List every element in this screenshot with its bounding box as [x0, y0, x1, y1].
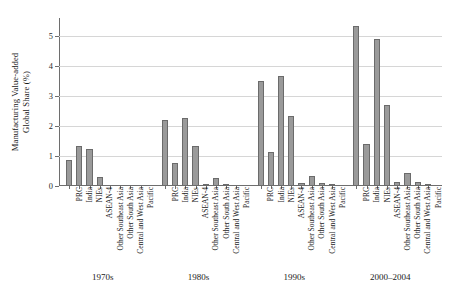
x-axis-category-label: PRC [72, 187, 81, 201]
bar [76, 146, 82, 187]
x-axis-category-label: Other Southeast Asia [400, 187, 409, 250]
x-axis-category-label: Central and West Asia [325, 187, 334, 254]
bar [86, 149, 92, 187]
x-axis-category-label: PRC [263, 187, 272, 201]
x-axis-category-label: ASEAN-4 [390, 187, 399, 218]
y-tick-mark [55, 36, 59, 37]
y-axis-title-line1: Manufacturing Value-added [10, 53, 20, 152]
bar [309, 176, 315, 187]
gridline [59, 66, 442, 67]
y-tick-label: 2 [49, 122, 53, 131]
bar [97, 177, 103, 186]
y-tick-mark [55, 96, 59, 97]
x-axis-category-label: Pacific [335, 187, 344, 208]
x-axis-category-label: NIEs [188, 187, 197, 202]
x-axis-category-label: Other Southeast Asia [208, 187, 217, 250]
x-axis-category-label: NIEs [380, 187, 389, 202]
x-axis-category-label: Other Southeast Asia [304, 187, 313, 250]
y-tick-mark [55, 156, 59, 157]
x-axis-category-label: Central and West Asia [133, 187, 142, 254]
x-axis-category-label: PRC [359, 187, 368, 201]
x-axis-category-label: ASEAN-4 [294, 187, 303, 218]
x-axis-category-label: India [82, 187, 91, 202]
y-tick-label: 1 [49, 152, 53, 161]
bar [384, 105, 390, 186]
x-axis-category-label: Pacific [239, 187, 248, 208]
x-axis-group-label: 1990s [284, 272, 306, 282]
x-axis-category-label: India [369, 187, 378, 202]
x-axis-category-label: Central and West Asia [229, 187, 238, 254]
figure-canvas: ﾠ Manufacturing Value-added Global Share… [0, 0, 450, 307]
x-axis-group-label: 1970s [92, 272, 114, 282]
x-axis-category-label: ASEAN-4 [198, 187, 207, 218]
bar [268, 152, 274, 186]
y-tick-label: 0 [49, 182, 53, 191]
bar [172, 163, 178, 186]
bar [353, 26, 359, 187]
gridline [59, 36, 442, 37]
bar [363, 144, 369, 186]
y-tick-label: 3 [49, 92, 53, 101]
x-axis-category-labels: PRCIndiaNIEsASEAN-4Other Southeast AsiaO… [59, 187, 442, 262]
y-tick-label: 4 [49, 62, 53, 71]
bar [192, 146, 198, 186]
bar [213, 178, 219, 186]
bar [374, 39, 380, 186]
bar [278, 76, 284, 186]
gridline [59, 96, 442, 97]
scan-top-artifact: ﾠ [0, 0, 450, 7]
x-axis-group-labels: 1970s1980s1990s2000–2004 [59, 272, 442, 288]
x-axis-category-label: Other South Asia [123, 187, 132, 239]
x-axis-category-label: Pacific [143, 187, 152, 208]
x-axis-category-label: Other Southeast Asia [113, 187, 122, 250]
bar [404, 173, 410, 187]
x-axis-category-label: Other South Asia [410, 187, 419, 239]
x-axis-category-label: India [178, 187, 187, 202]
x-axis-category-label: Central and West Asia [420, 187, 429, 254]
y-tick-mark [55, 66, 59, 67]
y-axis-title-line2: Global Share (%) [21, 53, 32, 152]
bar [162, 120, 168, 186]
x-axis-category-label: India [274, 187, 283, 202]
x-axis-group-label: 1980s [188, 272, 210, 282]
x-axis-category-label: NIEs [92, 187, 101, 202]
x-axis-category-label: Pacific [431, 187, 440, 208]
bar [182, 118, 188, 186]
x-axis-category-label: NIEs [284, 187, 293, 202]
bar [288, 116, 294, 187]
y-axis-title: Manufacturing Value-added Global Share (… [2, 18, 40, 186]
bar [258, 81, 264, 186]
y-tick-mark [55, 126, 59, 127]
x-axis-category-label: ASEAN-4 [102, 187, 111, 218]
y-tick-label: 5 [49, 32, 53, 41]
plot-area: 012345 [59, 18, 442, 186]
y-axis-line [59, 18, 60, 186]
x-axis-category-label: Other South Asia [314, 187, 323, 239]
x-axis-category-label: PRC [168, 187, 177, 201]
x-axis-category-label: Other South Asia [219, 187, 228, 239]
bar [66, 160, 72, 186]
x-axis-group-label: 2000–2004 [370, 272, 411, 282]
